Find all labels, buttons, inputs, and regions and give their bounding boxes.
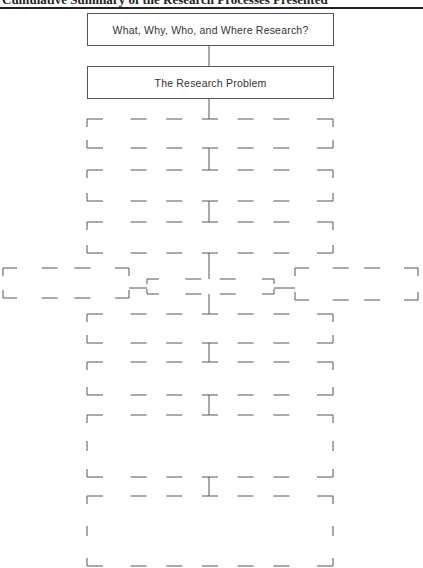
- dashed-box-center: [147, 279, 274, 294]
- dashed-box-right: [295, 268, 418, 300]
- dashed-box-7: [87, 496, 333, 566]
- dashed-box-1: [87, 119, 333, 148]
- dashed-box-2: [87, 170, 333, 201]
- dashed-box-6: [87, 415, 333, 477]
- dashed-box-5: [87, 362, 333, 395]
- diagram-lines: [0, 0, 423, 568]
- dashed-box-left: [3, 268, 129, 298]
- dashed-box-4: [87, 314, 333, 343]
- dashed-box-3: [87, 222, 333, 253]
